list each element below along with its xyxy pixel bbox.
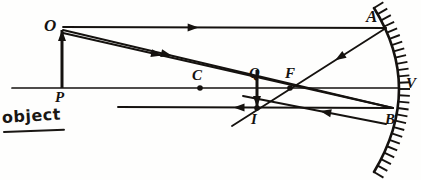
ray-O-to-V: [63, 33, 393, 108]
point-label-c: C: [192, 68, 202, 83]
ray-parallel-incident: [63, 23, 386, 31]
point-marker-f: [287, 85, 293, 91]
mirror-hatch-tick: [398, 69, 409, 71]
ray-parallel-incident-arrowhead: [188, 23, 199, 31]
point-label-o: O: [44, 17, 56, 34]
mirror-hatch-tick: [398, 102, 409, 103]
point-label-p: P: [55, 90, 64, 105]
mirror-hatch-tick: [381, 15, 391, 20]
mirror-hatch-tick: [387, 146, 397, 150]
point-label-i: I: [251, 112, 257, 127]
mirror-hatch-tick: [384, 22, 394, 27]
mirror-hatch-tick: [390, 35, 400, 39]
mirror-hatch-tick: [398, 108, 409, 110]
mirror-hatch-tick: [395, 55, 406, 58]
mirror-hatch-tick: [378, 9, 388, 14]
point-label-v: V: [406, 76, 416, 91]
mirror-hatch-tick: [374, 172, 383, 178]
mirror-hatch-tick: [399, 95, 410, 96]
light-rays-group: [63, 23, 393, 126]
point-label-a: A: [366, 8, 377, 25]
ray-reflected-A-to-I-arrowhead: [335, 51, 346, 60]
ray-reflected-B-to-left-arrowhead: [234, 103, 245, 111]
ray-O-to-V-line: [63, 33, 393, 108]
ray-V-reflect-to-B-arrowhead: [320, 109, 332, 117]
ray-diagram-figure: OPCQFIABV object: [0, 0, 421, 180]
point-marker-i: [254, 105, 260, 111]
point-marker-c: [197, 85, 203, 91]
mirror-hatch-tick: [392, 42, 402, 45]
mirror-hatch-tick: [395, 121, 406, 123]
ray-V-reflect-to-B-line: [243, 96, 386, 124]
mirror-hatch-tick: [394, 127, 405, 130]
mirror-hatch-tick: [390, 140, 400, 144]
ray-V-reflect-to-B: [243, 96, 386, 124]
mirror-hatch-tick: [397, 114, 408, 116]
mirror-hatch-tick: [384, 153, 394, 158]
point-label-f: F: [285, 66, 295, 81]
point-label-q: Q: [249, 66, 260, 81]
object-caption: object: [1, 104, 61, 127]
mirror-hatch-tick: [387, 28, 397, 32]
mirror-hatch-tick: [397, 62, 408, 64]
point-label-b: B: [385, 112, 395, 127]
mirror-hatch-tick: [378, 166, 388, 171]
mirror-hatch-tick: [392, 133, 402, 136]
mirror-hatch-tick: [394, 48, 405, 51]
mirror-hatch-tick: [381, 159, 391, 164]
ray-parallel-incident-line: [63, 27, 386, 28]
object-arrow-arrowhead: [58, 30, 66, 41]
object-arrow: [58, 30, 66, 88]
